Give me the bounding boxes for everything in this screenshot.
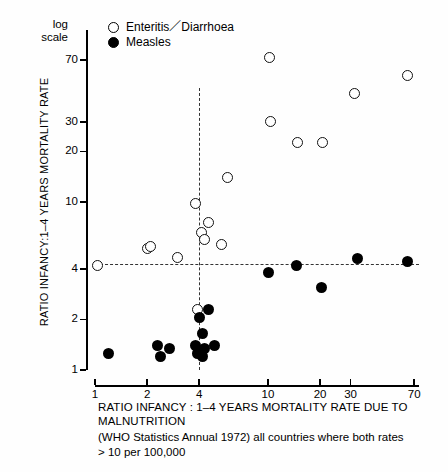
x-tick-label: 20: [305, 388, 335, 400]
log-scale-line-1: log: [22, 18, 68, 31]
data-point-measles: [402, 256, 413, 267]
x-tick-label: 30: [336, 388, 366, 400]
horizontal-reference-line: [95, 264, 419, 265]
data-point-enteritis: [172, 252, 183, 263]
y-tick-label-text: 70: [40, 54, 78, 66]
y-tick-mark: [80, 201, 86, 203]
legend-item-measles: Measles: [108, 35, 234, 50]
chart-legend: Enteritis／Diarrhoea Measles: [108, 20, 234, 50]
y-axis-line: [86, 30, 88, 370]
log-scale-note: log scale: [22, 18, 68, 44]
y-tick-label: 20: [40, 145, 78, 157]
data-point-measles: [352, 253, 363, 264]
data-point-measles: [155, 351, 166, 362]
data-point-enteritis: [292, 137, 303, 148]
legend-item-enteritis: Enteritis／Diarrhoea: [108, 20, 234, 35]
data-point-enteritis: [222, 172, 233, 183]
x-tick-label: 2: [132, 388, 162, 400]
x-tick-mark: [319, 379, 321, 385]
data-point-enteritis: [216, 239, 227, 250]
data-point-measles: [316, 282, 327, 293]
data-point-measles: [103, 348, 114, 359]
data-point-enteritis: [190, 198, 201, 209]
y-tick-label: 2: [40, 313, 78, 325]
y-tick-label-text: 30: [40, 116, 78, 128]
data-point-enteritis: [402, 70, 413, 81]
data-point-measles: [263, 267, 274, 278]
x-tick-mark: [350, 379, 352, 385]
x-tick-mark: [198, 379, 200, 385]
legend-label-measles: Measles: [126, 35, 171, 50]
data-point-enteritis: [199, 234, 210, 245]
y-tick-mark: [80, 319, 86, 321]
y-tick-label-text: 4: [40, 263, 78, 275]
x-tick-mark: [267, 379, 269, 385]
data-point-enteritis: [92, 260, 103, 271]
data-point-measles: [291, 260, 302, 271]
data-point-measles: [164, 343, 175, 354]
scatter-plot-figure: log scale RATIO INFANCY:1–4 YEARS MORTAL…: [0, 0, 448, 472]
legend-label-enteritis: Enteritis／Diarrhoea: [126, 20, 234, 35]
y-tick-label: 10: [40, 196, 78, 208]
data-point-enteritis: [145, 241, 156, 252]
y-tick-mark: [80, 369, 86, 371]
y-tick-label-text: 2: [40, 313, 78, 325]
x-tick-mark: [146, 379, 148, 385]
x-axis-note-line-1: (WHO Statistics Annual 1972) all countri…: [98, 430, 438, 445]
data-point-measles: [197, 351, 208, 362]
data-point-measles: [152, 340, 163, 351]
y-tick-label-text: 10: [40, 196, 78, 208]
log-scale-line-2: scale: [22, 31, 68, 44]
x-tick-label: 10: [253, 388, 283, 400]
y-tick-mark: [80, 151, 86, 153]
y-tick-label: 4: [40, 263, 78, 275]
y-tick-label: 30: [40, 116, 78, 128]
data-point-enteritis: [349, 88, 360, 99]
y-tick-label: 1: [40, 364, 78, 376]
x-axis-note-line-2: > 10 per 100,000: [98, 445, 438, 460]
data-point-measles: [203, 304, 214, 315]
data-point-enteritis: [265, 116, 276, 127]
y-tick-label: 70: [40, 54, 78, 66]
y-tick-label-text: 1: [40, 364, 78, 376]
y-tick-mark: [80, 268, 86, 270]
y-tick-label-text: 20: [40, 145, 78, 157]
x-tick-mark: [94, 379, 96, 385]
y-tick-mark: [80, 121, 86, 123]
data-point-enteritis: [317, 137, 328, 148]
x-tick-label: 4: [184, 388, 214, 400]
x-tick-mark: [413, 379, 415, 385]
data-point-measles: [194, 312, 205, 323]
x-axis-note: (WHO Statistics Annual 1972) all countri…: [98, 430, 438, 460]
data-point-enteritis: [264, 52, 275, 63]
data-point-measles: [197, 328, 208, 339]
x-tick-label: 70: [399, 388, 429, 400]
x-tick-label: 1: [80, 388, 110, 400]
x-axis-title: RATIO INFANCY : 1–4 YEARS MORTALITY RATE…: [98, 400, 438, 428]
data-point-enteritis: [203, 217, 214, 228]
data-point-measles: [209, 340, 220, 351]
open-circle-marker-icon: [108, 22, 119, 33]
y-tick-mark: [80, 59, 86, 61]
filled-circle-marker-icon: [108, 37, 119, 48]
x-axis-line: [95, 385, 419, 387]
